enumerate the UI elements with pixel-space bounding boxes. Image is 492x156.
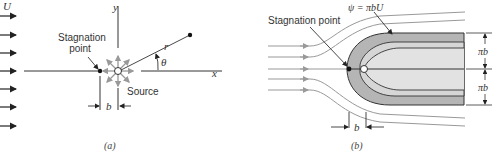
stagnation-point-b <box>347 67 352 72</box>
stagnation-label-a: Stagnation point <box>58 32 102 54</box>
r-label: r <box>164 40 168 52</box>
pi-b-lower-label: πb <box>478 82 488 93</box>
field-point <box>188 33 192 37</box>
pi-b-upper-label: πb <box>478 46 488 57</box>
stagnation-leader-b <box>310 27 347 66</box>
axes <box>24 6 222 110</box>
r-vector <box>121 36 188 70</box>
source-point-b <box>361 66 368 73</box>
source-label: Source <box>127 86 159 97</box>
source-point <box>115 68 122 75</box>
b-label-b: b <box>354 121 360 133</box>
streamline-arrows <box>300 46 308 90</box>
y-axis-label: y <box>113 1 118 13</box>
x-axis-label: x <box>212 67 217 79</box>
pi-b-dimension <box>466 33 492 105</box>
theta-label: θ <box>161 56 166 68</box>
theta-arc <box>156 54 158 70</box>
b-label-a: b <box>106 100 112 112</box>
figure-root: U y x Stagnation point Source r θ b (a) … <box>0 0 492 156</box>
psi-label: ψ = πbU <box>348 2 383 13</box>
free-stream-label: U <box>3 0 11 12</box>
caption-a: (a) <box>104 140 116 151</box>
stagnation-label-b: Stagnation point <box>268 15 340 26</box>
stagnation-leader-a <box>88 57 98 69</box>
diagram-canvas <box>0 0 492 156</box>
stagnation-point-a <box>98 69 102 73</box>
free-stream-arrows <box>0 16 16 126</box>
caption-b: (b) <box>351 140 363 151</box>
